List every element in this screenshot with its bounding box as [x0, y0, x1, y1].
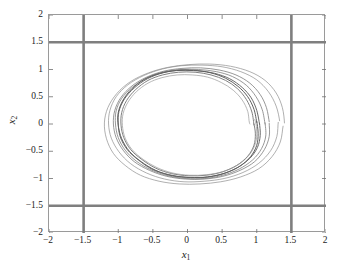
y-tick-label: 1.5 [0, 36, 43, 46]
x-axis-title-subscript: 1 [187, 253, 191, 262]
trajectory-curves [104, 64, 284, 184]
x-tick-label: −0.5 [143, 235, 160, 245]
x-tick-label: 0.5 [215, 235, 227, 245]
x-tick-label: −2 [43, 235, 53, 245]
y-axis-title-text: x [5, 119, 17, 124]
phase-portrait-figure: −2−1.5−1−0.500.511.52 −2−1.5−1−0.500.511… [0, 0, 343, 272]
y-tick-label: −0.5 [0, 145, 43, 155]
x-tick-label: 0 [184, 235, 189, 245]
y-axis-title-subscript: 2 [10, 116, 19, 120]
plot-canvas [49, 15, 326, 233]
y-tick-label: 2 [0, 9, 43, 19]
x-axis-title: x1 [182, 248, 191, 262]
x-tick-label: 1.5 [284, 235, 296, 245]
x-tick-label: 2 [323, 235, 328, 245]
y-tick-label: 0.5 [0, 91, 43, 101]
plot-axes-frame [48, 14, 325, 232]
x-tick-label: −1.5 [74, 235, 91, 245]
y-tick-label: 1 [0, 64, 43, 74]
y-axis-title: x2 [5, 116, 19, 125]
y-tick-label: −1.5 [0, 200, 43, 210]
trajectory-path [115, 69, 266, 179]
y-tick-label: −1 [0, 173, 43, 183]
tick-marks [49, 15, 326, 233]
x-tick-label: −1 [112, 235, 122, 245]
y-tick-label: −2 [0, 227, 43, 237]
constraint-lines [49, 15, 326, 233]
x-tick-label: 1 [253, 235, 258, 245]
